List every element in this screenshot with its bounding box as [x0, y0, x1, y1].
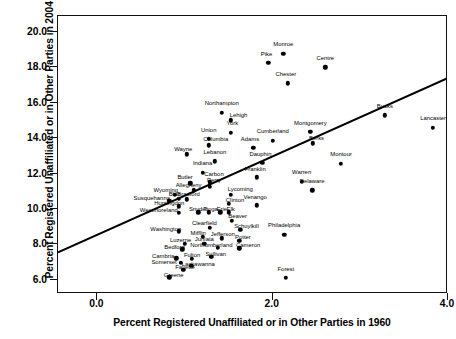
data-point-label: Lehigh [230, 112, 248, 118]
data-point[interactable] [383, 113, 387, 117]
y-tick-mark [50, 279, 57, 280]
data-point[interactable] [323, 65, 327, 69]
y-tick-label: 20.0 [0, 25, 47, 36]
data-point-label: Erie [217, 206, 227, 212]
data-point-label: Cameron [236, 242, 260, 248]
data-point[interactable] [266, 61, 270, 65]
x-tick-label: 0.0 [66, 298, 126, 309]
data-point[interactable] [185, 152, 189, 156]
y-tick-mark [50, 173, 57, 174]
data-point[interactable] [255, 203, 259, 207]
data-point-label: Perry [207, 177, 221, 183]
data-point[interactable] [282, 232, 286, 236]
data-point-label: Clearfield [192, 220, 217, 226]
data-point[interactable] [310, 188, 314, 192]
data-point[interactable] [228, 131, 232, 135]
data-point-label: Lycoming [228, 186, 253, 192]
x-axis-title: Percent Registered Unaffiliated or in Ot… [57, 317, 447, 328]
data-point-label: Wayne [174, 146, 192, 152]
data-point-label: Centre [316, 55, 334, 61]
data-point-label: Berks [309, 135, 324, 141]
data-point-label: Somerset [151, 259, 176, 265]
y-tick-label: 12.0 [0, 167, 47, 178]
data-point-label: Pike [261, 51, 272, 57]
data-point-label: Dauphin [249, 151, 271, 157]
data-point-label: Delaware [300, 178, 325, 184]
data-point-label: Washington [150, 226, 181, 232]
data-point-label: Bucks [377, 103, 393, 109]
data-point-label: Westmoreland [140, 207, 178, 213]
data-point-label: Monroe [273, 41, 293, 47]
data-point-label: Northumberland [190, 242, 232, 248]
y-tick-label: 16.0 [0, 96, 47, 107]
data-point-label: Lebanon [203, 149, 226, 155]
data-point[interactable] [207, 185, 211, 189]
y-tick-mark [50, 208, 57, 209]
data-point-label: Elk [227, 206, 235, 212]
data-point-label: Bradford [177, 191, 200, 197]
data-point-label: Forest [278, 266, 295, 272]
data-point-label: Schuylkill [234, 223, 259, 229]
data-point-label: Bedford [164, 244, 185, 250]
data-point[interactable] [213, 159, 217, 163]
data-point[interactable] [255, 175, 259, 179]
x-tick-label: 2.0 [242, 298, 302, 309]
data-point[interactable] [207, 143, 211, 147]
data-point-label: Jefferson [211, 231, 235, 237]
data-point-label: Venango [244, 194, 267, 200]
scatter-plot-figure: Percent Registered Unaffiliated or in Ot… [0, 0, 456, 339]
plot-area: MonroePikeChesterCentreNorthamptonLehigh… [57, 15, 447, 293]
data-point[interactable] [220, 110, 224, 114]
data-point[interactable] [271, 139, 275, 143]
data-point-label: Montour [330, 151, 352, 157]
data-point-label: Columbia [203, 136, 228, 142]
y-tick-mark [50, 243, 57, 244]
data-point-label: Cumberland [257, 128, 289, 134]
data-point[interactable] [185, 197, 189, 201]
y-tick-mark [50, 66, 57, 67]
data-point[interactable] [308, 130, 312, 134]
y-tick-mark [50, 102, 57, 103]
y-tick-label: 10.0 [0, 203, 47, 214]
data-point-label: Tioga [203, 206, 218, 212]
data-point-label: Allegheny [176, 182, 202, 188]
data-point[interactable] [281, 52, 285, 56]
data-point-label: Luzerne [170, 237, 191, 243]
data-point[interactable] [251, 146, 255, 150]
y-tick-label: 14.0 [0, 132, 47, 143]
data-point-label: Northampton [205, 100, 239, 106]
data-point[interactable] [431, 125, 435, 129]
data-point-label: Union [201, 127, 216, 133]
y-tick-label: 8.0 [0, 238, 47, 249]
data-point-label: Potter [235, 234, 251, 240]
data-point-label: Fulton [184, 252, 200, 258]
y-tick-label: 18.0 [0, 61, 47, 72]
data-point-label: Fayette [175, 264, 195, 270]
data-point[interactable] [339, 162, 343, 166]
data-point[interactable] [285, 81, 289, 85]
data-point-label: Blair [169, 191, 181, 197]
data-point[interactable] [311, 141, 315, 145]
data-point-label: Adams [241, 136, 259, 142]
data-point-label: Franklin [245, 166, 266, 172]
x-tick-label: 4.0 [417, 298, 456, 309]
y-tick-mark [50, 31, 57, 32]
data-point[interactable] [260, 161, 264, 165]
data-point-label: Sullivan [205, 251, 226, 257]
data-point-label: Lancaster [420, 115, 446, 121]
data-point-label: York [227, 120, 239, 126]
data-point-label: Greene [164, 272, 184, 278]
data-point-label: Chester [276, 71, 297, 77]
data-point-label: Indiana [193, 160, 212, 166]
data-point-label: Beaver [228, 213, 247, 219]
data-point-label: Montgomery [294, 120, 327, 126]
data-point-label: Clinton [226, 197, 244, 203]
data-point-label: Butler [177, 174, 192, 180]
y-tick-mark [50, 137, 57, 138]
data-point-label: Huntingdon [154, 200, 184, 206]
y-tick-label: 6.0 [0, 273, 47, 284]
data-point-label: Warren [292, 169, 311, 175]
data-point-label: Philadelphia [268, 222, 300, 228]
data-point[interactable] [284, 276, 288, 280]
